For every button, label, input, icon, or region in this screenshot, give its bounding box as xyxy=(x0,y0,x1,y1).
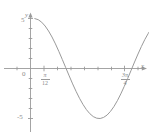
x-axis-label: x xyxy=(141,62,144,70)
graph-figure: y x 5 -5 0 π 12 3π 4 xyxy=(0,0,149,140)
fraction-numerator: 3π xyxy=(118,72,132,79)
fraction-denominator: 12 xyxy=(38,80,52,87)
origin-label: 0 xyxy=(22,70,26,78)
fraction-numerator: π xyxy=(38,72,52,79)
y-tick-label-5: 5 xyxy=(21,16,25,24)
fraction-denominator: 4 xyxy=(118,80,132,87)
y-axis-arrow xyxy=(28,13,32,18)
x-tick-label-3pi-over-4: 3π 4 xyxy=(118,72,132,87)
x-tick-label-pi-over-12: π 12 xyxy=(38,72,52,87)
y-tick-label-negative-5: -5 xyxy=(17,113,23,121)
y-axis-label: y xyxy=(25,11,28,19)
